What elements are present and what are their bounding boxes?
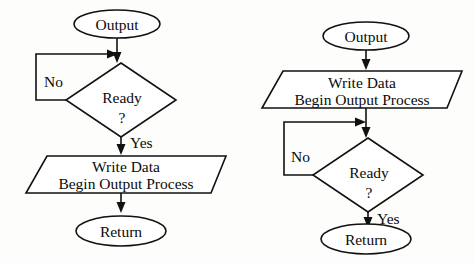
left-process-label-line1: Write Data bbox=[92, 158, 160, 175]
right-end-node[interactable]: Return bbox=[321, 224, 411, 254]
left-process-node[interactable]: Write Data Begin Output Process bbox=[26, 156, 226, 193]
left-yes-label: Yes bbox=[130, 134, 153, 151]
left-decision-question-mark: ? bbox=[119, 109, 126, 126]
right-decision-label: Ready bbox=[349, 164, 389, 181]
right-arrowhead-to-process bbox=[362, 59, 371, 70]
right-decision-question-mark: ? bbox=[366, 184, 373, 201]
left-arrowhead-to-process bbox=[117, 144, 126, 155]
right-start-label: Output bbox=[344, 28, 388, 45]
flowchart-figure: Output No Ready ? bbox=[0, 0, 474, 264]
right-arrowhead-loopback bbox=[355, 118, 366, 127]
left-end-node[interactable]: Return bbox=[76, 216, 166, 246]
right-arrowhead-to-decision bbox=[362, 127, 371, 138]
diagram-right: Output Write Data Begin Output Process bbox=[262, 22, 462, 254]
right-start-node[interactable]: Output bbox=[323, 22, 409, 50]
left-decision-node[interactable]: Ready ? bbox=[66, 63, 176, 137]
diagram-left: Output No Ready ? bbox=[26, 10, 226, 246]
right-edge-start-to-process bbox=[362, 50, 371, 70]
right-end-label: Return bbox=[345, 231, 387, 248]
left-edge-process-to-end bbox=[117, 193, 126, 213]
right-no-label: No bbox=[291, 148, 310, 165]
right-process-node[interactable]: Write Data Begin Output Process bbox=[262, 71, 462, 108]
left-no-label: No bbox=[44, 73, 63, 90]
right-decision-node[interactable]: Ready ? bbox=[313, 138, 423, 212]
left-end-label: Return bbox=[100, 223, 142, 240]
left-arrowhead-to-end bbox=[117, 202, 126, 213]
right-process-label-line1: Write Data bbox=[328, 74, 396, 91]
left-start-label: Output bbox=[95, 16, 139, 33]
flowchart-canvas: Output No Ready ? bbox=[0, 0, 474, 264]
left-edge-start-to-decision bbox=[113, 38, 122, 63]
left-process-label-line2: Begin Output Process bbox=[58, 175, 193, 192]
left-decision-label: Ready bbox=[102, 89, 142, 106]
right-process-label-line2: Begin Output Process bbox=[294, 91, 429, 108]
left-start-node[interactable]: Output bbox=[74, 10, 160, 38]
